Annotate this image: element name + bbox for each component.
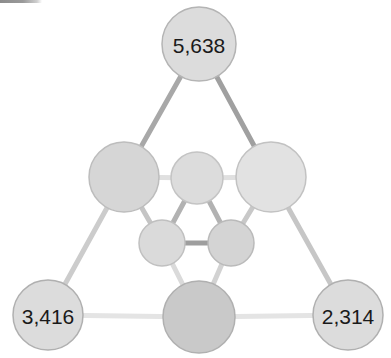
graph-node-inner-bottom-left[interactable]	[139, 220, 185, 266]
node-circle-mid-left[interactable]	[89, 142, 159, 212]
diagram-canvas: 5,6383,4162,314	[0, 0, 391, 358]
node-circle-bottom-center[interactable]	[163, 281, 235, 353]
graph-node-mid-left[interactable]	[89, 142, 159, 212]
graph-node-bottom-right[interactable]: 2,314	[313, 280, 383, 350]
node-circle-inner-bottom-right[interactable]	[208, 220, 254, 266]
network-graph: 5,6383,4162,314	[0, 0, 391, 358]
graph-node-inner-top[interactable]	[171, 152, 223, 204]
nodes-layer: 5,6383,4162,314	[13, 7, 383, 353]
node-label-bottom-left: 3,416	[22, 305, 75, 328]
node-label-bottom-right: 2,314	[322, 305, 375, 328]
graph-node-bottom-left[interactable]: 3,416	[13, 280, 83, 350]
node-circle-mid-right[interactable]	[236, 142, 306, 212]
node-label-top: 5,638	[173, 34, 226, 57]
graph-node-mid-right[interactable]	[236, 142, 306, 212]
graph-node-top[interactable]: 5,638	[162, 7, 236, 81]
graph-node-bottom-center[interactable]	[163, 281, 235, 353]
graph-node-inner-bottom-right[interactable]	[208, 220, 254, 266]
node-circle-inner-top[interactable]	[171, 152, 223, 204]
node-circle-inner-bottom-left[interactable]	[139, 220, 185, 266]
